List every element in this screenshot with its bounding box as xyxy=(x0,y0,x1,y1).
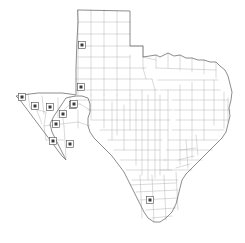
south-texas-counties xyxy=(130,172,178,222)
south-plains-counties xyxy=(76,57,178,180)
site-marker[interactable] xyxy=(47,104,54,111)
site-marker[interactable] xyxy=(79,42,86,49)
hill-country-counties xyxy=(112,95,160,180)
site-marker[interactable] xyxy=(71,101,78,108)
site-markers-layer xyxy=(19,42,154,204)
site-marker[interactable] xyxy=(60,111,67,118)
central-texas-counties xyxy=(142,80,214,178)
panhandle-counties xyxy=(76,10,158,95)
site-marker[interactable] xyxy=(19,94,26,101)
county-boundaries-layer xyxy=(28,10,230,222)
east-texas-counties xyxy=(160,92,230,170)
site-marker[interactable] xyxy=(50,138,57,145)
site-marker[interactable] xyxy=(78,84,85,91)
map-svg xyxy=(0,0,245,243)
site-marker[interactable] xyxy=(32,103,39,110)
site-marker[interactable] xyxy=(147,197,154,204)
site-marker[interactable] xyxy=(67,141,74,148)
site-marker[interactable] xyxy=(53,121,60,128)
texas-county-map-figure xyxy=(0,0,245,243)
